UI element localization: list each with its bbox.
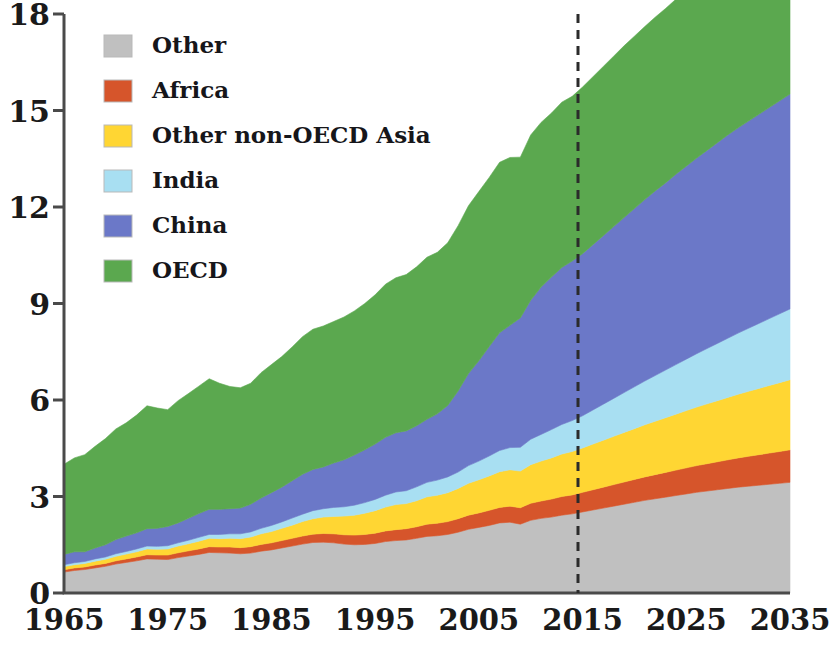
y-axis-tick-label: 15 [8,94,50,129]
legend-swatch-oecd [104,260,132,282]
stacked-area-chart: 0369121518 19651975198519952005201520252… [0,0,831,647]
x-axis-tick-label: 2005 [438,603,519,637]
x-axis-labels: 19651975198519952005201520252035 [24,603,831,637]
y-axis-labels: 0369121518 [8,0,50,611]
chart-svg: 0369121518 19651975198519952005201520252… [0,0,831,647]
legend-label-other: Other [152,31,227,58]
legend-label-africa: Africa [151,76,229,103]
legend-label-india: India [152,166,219,193]
legend-label-oecd: OECD [152,256,228,283]
legend-swatch-other [104,35,132,57]
y-axis-tick-label: 3 [29,480,50,515]
legend-label-other-non-oecd-asia: Other non-OECD Asia [152,121,431,148]
y-axis-tick-label: 6 [29,383,50,418]
y-axis-tick-label: 12 [8,190,50,225]
legend: OtherAfricaOther non-OECD AsiaIndiaChina… [104,31,431,283]
x-axis-tick-label: 2025 [646,603,727,637]
legend-label-china: China [152,211,227,238]
y-axis-tick-label: 9 [29,287,50,322]
x-axis-tick-label: 2015 [542,603,623,637]
y-tick-group [53,14,64,593]
legend-swatch-india [104,170,132,192]
x-axis-tick-label: 1965 [24,603,105,637]
y-axis-tick-label: 18 [8,0,50,32]
x-axis-tick-label: 2035 [750,603,831,637]
x-axis-tick-label: 1995 [335,603,416,637]
legend-swatch-africa [104,80,132,102]
legend-swatch-other-non-oecd-asia [104,125,132,147]
x-axis-tick-label: 1985 [231,603,312,637]
legend-swatch-china [104,215,132,237]
x-axis-tick-label: 1975 [127,603,208,637]
